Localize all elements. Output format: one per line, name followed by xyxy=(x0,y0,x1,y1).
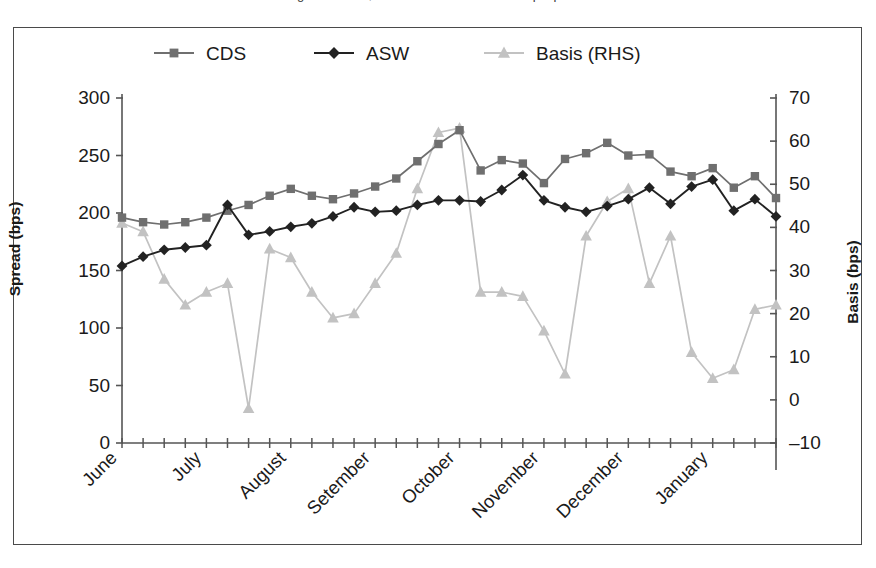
data-point-cds xyxy=(350,189,358,197)
data-point-cds xyxy=(181,218,189,226)
data-point-asw xyxy=(201,240,212,251)
data-point-cds xyxy=(265,192,273,200)
data-point-cds xyxy=(160,220,168,228)
data-point-cds xyxy=(434,140,442,148)
x-axis-tick-label: December xyxy=(552,447,627,522)
x-axis-tick-label-group: August xyxy=(234,447,290,503)
data-point-basis xyxy=(623,182,635,193)
data-point-basis xyxy=(728,364,740,375)
x-axis-tick-label: July xyxy=(167,446,206,485)
legend-label-asw: ASW xyxy=(366,43,409,64)
x-axis-tick-label-group: July xyxy=(167,446,206,485)
data-point-cds xyxy=(624,151,632,159)
data-point-basis xyxy=(770,299,782,310)
x-axis-tick-label-group: Setember xyxy=(302,447,374,519)
data-point-asw xyxy=(328,211,339,222)
series-line-basis xyxy=(122,128,776,408)
data-point-cds xyxy=(561,155,569,163)
data-point-cds xyxy=(666,167,674,175)
legend-marker-asw xyxy=(328,47,340,59)
data-point-basis xyxy=(264,243,276,254)
legend-label-basis: Basis (RHS) xyxy=(536,43,641,64)
data-point-cds xyxy=(519,159,527,167)
x-axis-tick-label: August xyxy=(234,447,290,503)
y-axis-left-tick-label: 250 xyxy=(78,145,110,166)
data-point-cds xyxy=(582,149,590,157)
data-point-cds xyxy=(540,179,548,187)
data-point-basis xyxy=(306,286,318,297)
x-axis-tick-label-group: June xyxy=(78,447,121,490)
data-point-cds xyxy=(139,218,147,226)
data-point-cds xyxy=(392,174,400,182)
y-axis-right-tick-label: 60 xyxy=(789,130,810,151)
chart-series xyxy=(116,122,782,413)
data-point-asw xyxy=(454,195,465,206)
x-axis-tick-label: January xyxy=(650,446,712,508)
data-point-basis xyxy=(390,247,402,258)
data-point-basis xyxy=(158,273,170,284)
data-point-cds xyxy=(244,201,252,209)
data-point-basis xyxy=(580,230,592,241)
data-point-cds xyxy=(118,213,126,221)
data-point-cds xyxy=(476,166,484,174)
data-point-cds xyxy=(687,172,695,180)
data-point-basis xyxy=(538,325,550,336)
data-point-asw xyxy=(180,242,191,253)
data-point-asw xyxy=(138,251,149,262)
x-axis-tick-label-group: November xyxy=(468,447,543,522)
data-point-asw xyxy=(370,206,381,217)
y-axis-left-tick-label: 300 xyxy=(78,87,110,108)
chart-frame: Spread (bps) Basis (bps) CDSASWBasis (RH… xyxy=(13,27,862,545)
data-point-cds xyxy=(772,194,780,202)
data-point-asw xyxy=(433,195,444,206)
x-axis-tick-label: Setember xyxy=(302,447,374,519)
y-axis-right-tick-label: 10 xyxy=(789,346,810,367)
series-line-cds xyxy=(122,130,776,224)
data-point-asw xyxy=(349,202,360,213)
y-axis-left-tick-label: 50 xyxy=(89,375,110,396)
y-axis-right-tick-label: 40 xyxy=(789,216,810,237)
data-point-asw xyxy=(117,261,128,272)
y-axis-left-tick-label: 100 xyxy=(78,317,110,338)
plot-area: CDSASWBasis (RHS) 050100150200250300–100… xyxy=(14,28,863,546)
data-point-cds xyxy=(751,172,759,180)
data-point-cds xyxy=(645,150,653,158)
data-point-asw xyxy=(560,202,571,213)
data-point-asw xyxy=(602,201,613,212)
y-axis-right-tick-label: 20 xyxy=(789,303,810,324)
data-point-basis xyxy=(665,230,677,241)
y-axis-left-tick-label: 200 xyxy=(78,202,110,223)
x-axis-tick-label: November xyxy=(468,447,543,522)
y-axis-right-tick-label: –10 xyxy=(789,432,821,453)
data-point-cds xyxy=(329,195,337,203)
data-point-cds xyxy=(603,139,611,147)
data-point-basis xyxy=(686,346,698,357)
x-axis-tick-label: October xyxy=(397,447,458,508)
data-point-asw xyxy=(285,221,296,232)
data-point-asw xyxy=(707,174,718,185)
data-point-asw xyxy=(391,205,402,216)
data-point-asw xyxy=(581,206,592,217)
chart-legend: CDSASWBasis (RHS) xyxy=(154,43,641,64)
data-point-basis xyxy=(559,368,571,379)
x-axis-tick-label-group: January xyxy=(650,446,712,508)
data-point-cds xyxy=(287,185,295,193)
x-axis-tick-label-group: December xyxy=(552,447,627,522)
data-point-cds xyxy=(709,164,717,172)
data-point-cds xyxy=(202,213,210,221)
data-point-asw xyxy=(264,226,275,237)
data-point-cds xyxy=(308,192,316,200)
data-point-asw xyxy=(159,244,170,255)
y-axis-right-tick-label: 30 xyxy=(789,260,810,281)
figure-root: Figure 4. CDS, ASW and basis for the sam… xyxy=(0,0,876,568)
legend-label-cds: CDS xyxy=(206,43,246,64)
y-axis-left-tick-label: 150 xyxy=(78,260,110,281)
data-point-asw xyxy=(475,196,486,207)
data-point-basis xyxy=(644,277,656,288)
data-point-cds xyxy=(498,156,506,164)
y-axis-right-tick-label: 0 xyxy=(789,389,800,410)
data-point-cds xyxy=(371,182,379,190)
data-point-basis xyxy=(222,277,234,288)
legend-marker-cds xyxy=(170,49,179,58)
y-axis-right-tick-label: 50 xyxy=(789,173,810,194)
